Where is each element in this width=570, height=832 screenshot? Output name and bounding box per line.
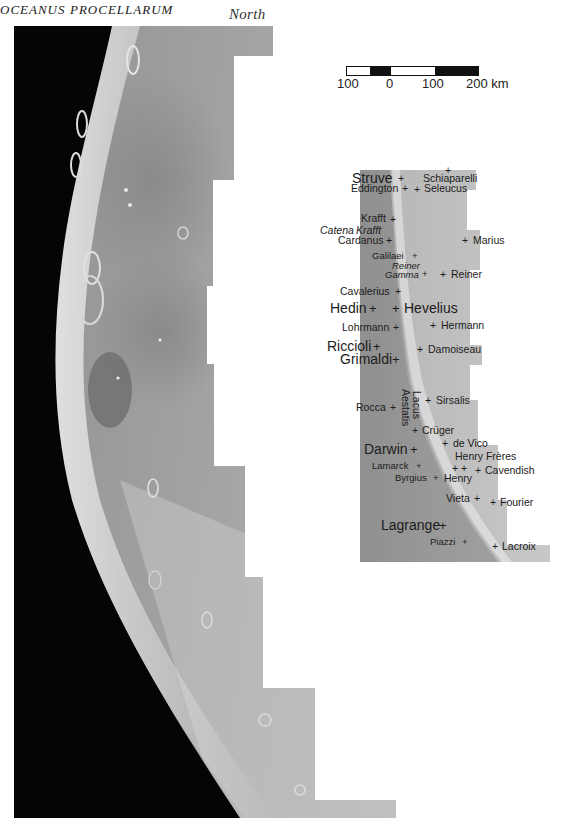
crater-label-cruger: Crüger <box>422 424 454 436</box>
crater-label-byrgius: Byrgius <box>395 472 427 483</box>
crater-label-seleucus: Seleucus <box>424 182 467 194</box>
scale-tick-100: 100 <box>422 76 444 91</box>
crater-label-damoiseau: Damoiseau <box>428 343 481 355</box>
crater-label-lagrange: Lagrange <box>381 517 440 533</box>
crater-label-darwin: Darwin <box>364 441 408 457</box>
scale-segment-3 <box>391 67 435 75</box>
marker-lohrmann: + <box>393 321 399 333</box>
crater-label-cavendish: Cavendish <box>485 464 535 476</box>
marker-hermann: + <box>430 319 436 331</box>
marker-reiner-gamma: + <box>422 268 428 279</box>
marker-marius: + <box>462 234 468 246</box>
crater-label-hermann: Hermann <box>441 319 484 331</box>
crater-label-krafft: Krafft <box>361 212 386 224</box>
crater-label-henry-freres: Henry Frères <box>455 450 516 462</box>
marker-damoiseau: + <box>417 343 423 355</box>
crater-label-cardanus: Cardanus <box>338 234 384 246</box>
marker-cavalerius: + <box>395 285 401 297</box>
crater-label-vieta: Vieta <box>446 492 470 504</box>
marker-hedin: + <box>369 301 377 316</box>
scale-segment-1 <box>347 67 370 75</box>
crater-label-hedin: Hedin <box>330 300 367 316</box>
marker-piazzi: + <box>462 536 468 547</box>
crater-label-rocca: Rocca <box>356 401 386 413</box>
crater-label-reiner: Reiner <box>451 268 482 280</box>
marker-cardanus: + <box>386 234 392 246</box>
marker-seleucus: + <box>414 183 420 195</box>
marker-sirsalis: + <box>425 394 431 406</box>
crater-label-cavalerius: Cavalerius <box>340 285 390 297</box>
marker-de-vico: + <box>442 437 448 449</box>
crater-label-marius: Marius <box>473 234 505 246</box>
marker-darwin: + <box>410 442 418 457</box>
crater-label-fourier: Fourier <box>500 496 533 508</box>
marker-hevelius: + <box>392 301 400 316</box>
left-mosaic-image <box>0 0 570 832</box>
left-mosaic-graphic <box>0 0 570 832</box>
feature-label-lacus-aestatis: Aestatis <box>400 389 412 426</box>
scale-tick-minus-100: 100 <box>337 76 359 91</box>
crater-label-piazzi: Piazzi <box>430 536 455 547</box>
marker-byrgius: + <box>433 472 439 483</box>
scale-segment-2 <box>370 67 391 75</box>
crater-label-hevelius: Hevelius <box>404 300 458 316</box>
north-orientation-label: North <box>229 6 266 23</box>
marker-cavendish: + <box>475 464 481 476</box>
scale-segment-4 <box>435 67 478 75</box>
feature-label-lacus: Lacus <box>411 391 423 419</box>
scale-bar <box>346 66 479 76</box>
marker-lacroix: + <box>492 540 498 552</box>
marker-lagrange: + <box>439 518 447 533</box>
crater-label-eddington: Eddington <box>351 182 398 194</box>
crater-label-lamarck: Lamarck <box>372 460 408 471</box>
crater-label-henry: Henry <box>444 472 472 484</box>
scale-tick-200km: 200 km <box>466 76 509 91</box>
marker-vieta: + <box>474 492 480 504</box>
crater-label-lacroix: Lacroix <box>502 540 536 552</box>
crater-label-sirsalis: Sirsalis <box>436 394 470 406</box>
crater-label-lohrmann: Lohrmann <box>342 321 389 333</box>
crater-label-de-vico: de Vico <box>453 437 488 449</box>
scale-tick-0: 0 <box>386 76 393 91</box>
marker-cruger: + <box>412 424 418 436</box>
marker-eddington: + <box>402 182 408 194</box>
marker-rocca: + <box>390 401 396 413</box>
marker-lamarck: + <box>416 460 422 471</box>
marker-krafft: + <box>390 213 396 225</box>
marker-grimaldi: + <box>392 352 400 367</box>
marker-fourier: + <box>490 496 496 508</box>
crater-label-grimaldi: Grimaldi <box>340 351 392 367</box>
marker-reiner: + <box>440 268 446 280</box>
feature-label-reiner-gamma: Gamma <box>385 269 419 280</box>
